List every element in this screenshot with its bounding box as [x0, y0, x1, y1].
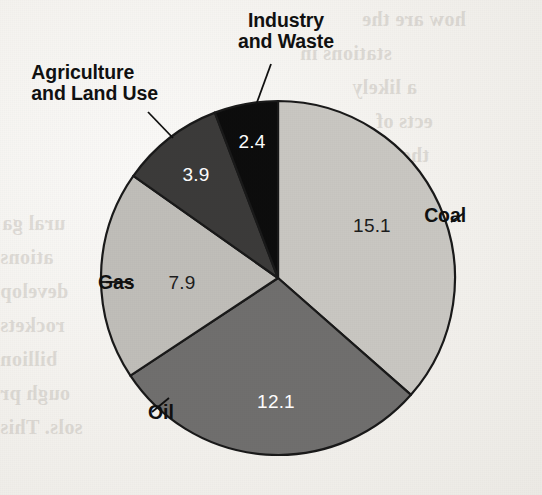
category-label: Oil	[148, 402, 174, 423]
slice-value: 2.4	[238, 131, 265, 153]
category-label: Agriculture and Land Use	[31, 62, 158, 104]
leader-line	[148, 112, 173, 138]
scanned-page: how are thestations ina likelyects ofthe…	[0, 0, 542, 495]
category-label: Industry and Waste	[238, 10, 334, 52]
category-label: Gas	[98, 272, 135, 293]
slice-value: 15.1	[353, 215, 391, 237]
leader-line	[256, 64, 271, 105]
category-label: Coal	[424, 205, 466, 226]
slice-value: 12.1	[257, 391, 295, 413]
slice-value: 3.9	[182, 164, 209, 186]
slice-value: 7.9	[168, 272, 195, 294]
pie-chart: 15.112.17.93.92.4 CoalOilGasAgriculture …	[0, 0, 542, 495]
